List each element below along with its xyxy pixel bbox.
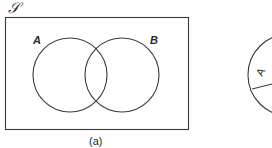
set-b-circle	[85, 38, 159, 112]
set-b-label: B	[150, 34, 158, 46]
universe-label: 𝒮	[8, 0, 24, 16]
set-a-label: A	[32, 34, 41, 46]
figure-a: 𝒮 A B (a)	[6, 0, 189, 147]
pie-region-label: A	[253, 65, 267, 78]
figure-a-caption: (a)	[89, 135, 102, 147]
venn-diagram-figure: 𝒮 A B (a) A	[0, 0, 272, 148]
figure-b-partial: A	[248, 34, 272, 116]
pie-divider-line	[252, 84, 272, 89]
